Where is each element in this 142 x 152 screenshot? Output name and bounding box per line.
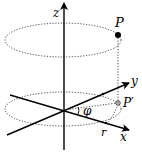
angle-arc bbox=[78, 107, 79, 114]
cylindrical-coordinates-diagram: z P y P′ φ r x bbox=[0, 0, 142, 152]
angle-phi-label: φ bbox=[83, 104, 92, 118]
radius-label: r bbox=[101, 126, 107, 139]
z-axis-label: z bbox=[52, 6, 60, 20]
projection-arc bbox=[106, 104, 118, 124]
y-axis-label: y bbox=[130, 74, 138, 88]
upper-circle bbox=[5, 23, 121, 57]
point-p-prime-center bbox=[117, 102, 118, 103]
y-axis bbox=[7, 83, 129, 135]
point-p bbox=[115, 32, 121, 38]
x-axis-label: x bbox=[120, 130, 127, 144]
y-tick bbox=[102, 93, 104, 95]
x-tick bbox=[105, 122, 107, 124]
x-axis bbox=[10, 95, 129, 130]
point-p-label: P bbox=[114, 15, 124, 30]
lower-circle bbox=[5, 92, 121, 126]
point-p-prime-label: P′ bbox=[122, 96, 134, 110]
